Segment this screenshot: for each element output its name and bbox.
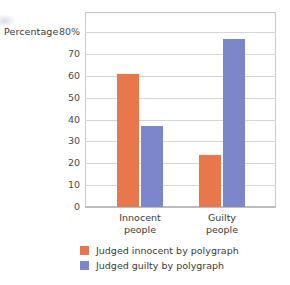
y-tick-60: 60 [40,70,80,82]
x-category-line: Innocent [95,212,185,224]
polygraph-accuracy-bar-chart: Percentage 80%706050403020100 Innocentpe… [0,0,290,285]
bar-innocent-judgement-group-1 [117,74,139,207]
x-category-line: people [177,224,267,236]
legend-label: Judged innocent by polygraph [96,245,239,256]
y-tick-label: 10 [40,179,80,190]
x-category-line: Guilty [177,212,267,224]
y-tick-label: 20 [40,157,80,168]
y-tick-20: 20 [40,157,80,169]
bar-innocent-judgement-group-2 [199,155,221,208]
x-category-label-2: Guiltypeople [177,212,267,235]
bar-guilty-judgement-group-2 [223,39,245,207]
y-tick-label: 80% [40,26,80,37]
y-tick-0: 0 [40,201,80,213]
bar-guilty-judgement-group-1 [141,126,163,207]
x-category-label-1: Innocentpeople [95,212,185,235]
y-tick-80: 80% [40,26,80,38]
y-tick-label: 50 [40,92,80,103]
y-tick-70: 70 [40,48,80,60]
y-tick-label: 70 [40,48,80,59]
legend-swatch-icon [80,261,89,270]
legend-label: Judged guilty by polygraph [96,260,224,271]
legend-item-1: Judged innocent by polygraph [80,243,239,258]
x-category-line: people [95,224,185,236]
y-tick-label: 40 [40,114,80,125]
y-tick-50: 50 [40,92,80,104]
bars-group [85,12,276,207]
y-tick-10: 10 [40,179,80,191]
y-tick-30: 30 [40,135,80,147]
legend-swatch-icon [80,246,89,255]
y-tick-label: 60 [40,70,80,81]
legend-item-2: Judged guilty by polygraph [80,258,239,273]
y-tick-label: 0 [40,201,80,212]
y-tick-40: 40 [40,114,80,126]
y-tick-label: 30 [40,135,80,146]
chart-legend: Judged innocent by polygraphJudged guilt… [80,243,239,273]
